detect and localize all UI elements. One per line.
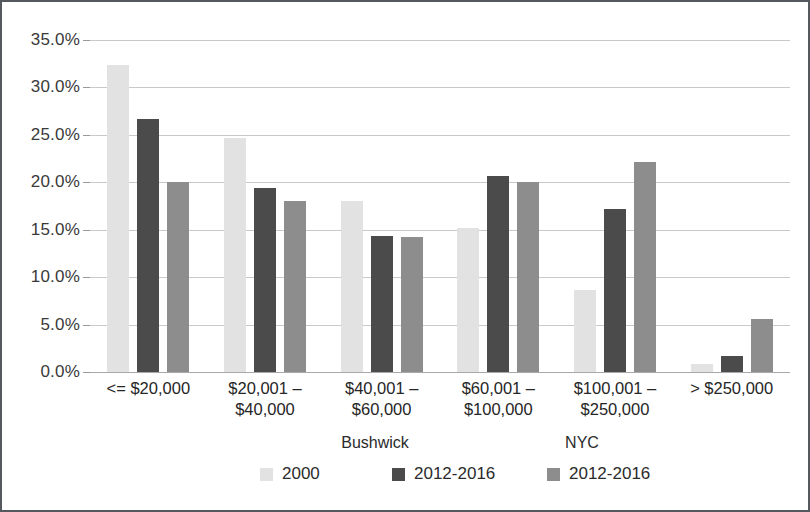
y-axis-tick [83, 372, 90, 373]
bar [167, 182, 189, 372]
x-axis-tick-label: $20,001 – $40,000 [207, 378, 324, 420]
bar [371, 236, 393, 372]
y-axis-tick-label: 0.0% [40, 362, 80, 382]
chart-legend: BushwickNYC20002012-20162012-2016 [2, 434, 808, 500]
x-axis-tick-label: $100,001 – $250,000 [557, 378, 674, 420]
legend-item[interactable]: 2012-2016 [547, 464, 650, 484]
y-axis-tick-label: 30.0% [31, 77, 80, 97]
bar [341, 201, 363, 372]
legend-item-label: 2012-2016 [414, 464, 495, 484]
legend-group-title: NYC [502, 434, 662, 452]
bar [107, 65, 129, 372]
legend-group-title: Bushwick [260, 434, 490, 452]
y-axis-tick [83, 40, 90, 41]
bar [604, 209, 626, 372]
bar [254, 188, 276, 372]
bar [517, 182, 539, 372]
bar-group [323, 40, 440, 372]
legend-item-label: 2000 [282, 464, 320, 484]
legend-swatch-icon [547, 468, 560, 481]
gridline-00 [90, 372, 790, 373]
bar [457, 228, 479, 372]
legend-item[interactable]: 2012-2016 [392, 464, 495, 484]
y-axis-tick [83, 87, 90, 88]
y-axis-tick-label: 15.0% [31, 220, 80, 240]
y-axis-tick [83, 230, 90, 231]
legend-swatch-icon [260, 468, 273, 481]
y-axis-tick-label: 10.0% [31, 267, 80, 287]
bar-group [90, 40, 207, 372]
y-axis-tick-label: 20.0% [31, 172, 80, 192]
plot-area: 0.0%5.0%10.0%15.0%20.0%25.0%30.0%35.0% [90, 40, 790, 372]
y-axis-tick-label: 25.0% [31, 125, 80, 145]
bar [634, 162, 656, 372]
bar [574, 290, 596, 372]
y-axis-tick [83, 325, 90, 326]
y-axis-tick-label: 5.0% [40, 315, 80, 335]
bar [224, 138, 246, 372]
bar-group [440, 40, 557, 372]
bar [691, 364, 713, 372]
bar-group [207, 40, 324, 372]
x-axis-tick-label: <= $20,000 [90, 378, 207, 399]
bar-group [557, 40, 674, 372]
bar [721, 356, 743, 372]
legend-swatch-icon [392, 468, 405, 481]
bar-group [673, 40, 790, 372]
x-axis-tick-label: > $250,000 [673, 378, 790, 399]
legend-item[interactable]: 2000 [260, 464, 320, 484]
y-axis-tick-label: 35.0% [31, 30, 80, 50]
bar [284, 201, 306, 372]
x-axis-tick-label: $60,001 – $100,000 [440, 378, 557, 420]
y-axis-tick [83, 135, 90, 136]
bar [137, 119, 159, 372]
legend-item-label: 2012-2016 [569, 464, 650, 484]
x-axis-tick-label: $40,001 – $60,000 [323, 378, 440, 420]
chart-container: 0.0%5.0%10.0%15.0%20.0%25.0%30.0%35.0% <… [0, 0, 810, 512]
bar [751, 319, 773, 372]
bar [401, 237, 423, 372]
bar [487, 176, 509, 372]
y-axis-tick [83, 277, 90, 278]
chart-canvas: 0.0%5.0%10.0%15.0%20.0%25.0%30.0%35.0% <… [2, 2, 808, 510]
y-axis-tick [83, 182, 90, 183]
